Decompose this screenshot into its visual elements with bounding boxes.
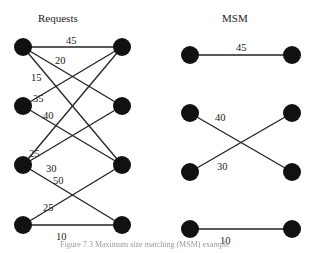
figure-caption: Figure 7.3 Maximum size matching (MSM) e…	[60, 240, 230, 249]
requests-edge-weight: 45	[66, 35, 77, 46]
msm-node	[181, 220, 199, 238]
msm-node	[283, 220, 301, 238]
requests-edge-weight: 25	[29, 148, 40, 159]
requests-node	[14, 216, 32, 234]
msm-node	[181, 163, 199, 181]
requests-edge-weight: 30	[46, 163, 57, 174]
requests-node	[14, 156, 32, 174]
msm-node	[181, 46, 199, 64]
requests-node	[14, 97, 32, 115]
requests-edge-weight: 40	[43, 110, 54, 121]
requests-edge-weight: 50	[53, 175, 64, 186]
msm-node	[181, 104, 199, 122]
requests-node	[113, 38, 131, 56]
msm-node	[283, 163, 301, 181]
requests-edge-weight: 15	[31, 72, 42, 83]
requests-node	[14, 38, 32, 56]
msm-node	[283, 46, 301, 64]
msm-edge-weight: 40	[215, 112, 226, 123]
bipartite-graphs: 4520153540253050251045403010	[0, 0, 315, 253]
msm-node	[283, 104, 301, 122]
requests-edge-weight: 35	[33, 93, 44, 104]
msm-edge-weight: 45	[236, 42, 247, 53]
requests-node	[113, 216, 131, 234]
requests-node	[113, 97, 131, 115]
requests-edge-weight: 20	[55, 55, 66, 66]
msm-edge-weight: 30	[217, 161, 228, 172]
requests-node	[113, 156, 131, 174]
requests-edge-weight: 25	[43, 202, 54, 213]
